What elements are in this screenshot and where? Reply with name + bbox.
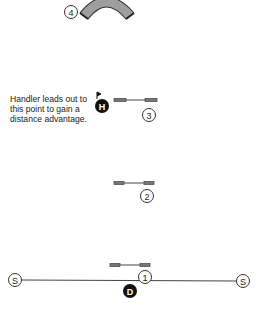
jump-2 <box>114 182 154 185</box>
obstacle-number-2: 2 <box>141 190 154 203</box>
annotation-line-1: Handler leads out to <box>10 94 100 104</box>
start-marker-left: S <box>9 274 22 287</box>
annotation-line-2: this point to gain a <box>10 104 100 114</box>
svg-text:D: D <box>127 287 134 297</box>
svg-text:S: S <box>12 276 18 286</box>
obstacle-number-1: 1 <box>139 271 152 284</box>
dog-marker: D <box>123 284 137 298</box>
svg-text:S: S <box>240 277 246 287</box>
annotation-line-3: distance advantage. <box>10 114 100 124</box>
svg-text:3: 3 <box>146 111 151 121</box>
svg-text:1: 1 <box>142 273 147 283</box>
svg-text:4: 4 <box>68 8 73 18</box>
obstacle-number-4: 4 <box>65 6 78 19</box>
obstacle-number-3: 3 <box>143 109 156 122</box>
jump-1 <box>110 264 150 267</box>
handler-annotation: Handler leads out to this point to gain … <box>10 94 100 124</box>
jump-3 <box>114 99 157 102</box>
start-line <box>22 280 236 281</box>
start-marker-right: S <box>237 275 250 288</box>
course-map: 4 H 3 2 1 S S <box>0 0 262 312</box>
tunnel-obstacle <box>80 2 134 19</box>
svg-text:2: 2 <box>144 192 149 202</box>
